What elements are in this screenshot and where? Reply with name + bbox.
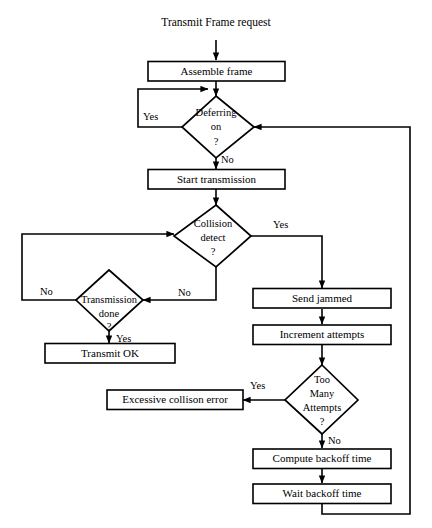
node-collision-line3: ? bbox=[211, 246, 216, 257]
node-collision-line2: detect bbox=[200, 232, 225, 243]
edge-label-deferring-no: No bbox=[221, 154, 234, 165]
flowchart-svg: Transmit Frame request Assemble frame De… bbox=[0, 0, 432, 528]
node-deferring-line3: ? bbox=[214, 136, 219, 147]
node-txdone-line2: done bbox=[99, 308, 120, 319]
node-collision-line1: Collision bbox=[194, 218, 233, 229]
edge-label-collision-no: No bbox=[178, 287, 191, 298]
edge-label-toomany-no: No bbox=[328, 435, 341, 446]
edge-label-txdone-yes: Yes bbox=[116, 333, 131, 344]
node-start-transmission-label: Start transmission bbox=[177, 173, 257, 185]
flowchart-canvas: Transmit Frame request Assemble frame De… bbox=[0, 0, 432, 528]
node-assemble-frame-label: Assemble frame bbox=[181, 65, 253, 77]
node-toomany-line1: Too bbox=[314, 374, 330, 385]
start-label: Transmit Frame request bbox=[161, 16, 271, 29]
edge-label-toomany-yes: Yes bbox=[250, 380, 265, 391]
node-txdone-line1: Transmission bbox=[81, 294, 138, 305]
node-increment-attempts-label: Increment attempts bbox=[280, 328, 365, 340]
edge-label-deferring-yes: Yes bbox=[143, 111, 158, 122]
node-toomany-line3: Attempts bbox=[303, 402, 342, 413]
node-toomany-line2: Many bbox=[310, 388, 335, 399]
node-txdone-line3: ? bbox=[107, 321, 112, 332]
node-compute-backoff-time-label: Compute backoff time bbox=[273, 452, 372, 464]
edge-label-txdone-no: No bbox=[40, 286, 53, 297]
node-send-jammed-label: Send jammed bbox=[292, 292, 353, 304]
edge-label-collision-yes: Yes bbox=[273, 219, 288, 230]
node-wait-backoff-time-label: Wait backoff time bbox=[283, 487, 362, 499]
node-transmit-ok-label: Transmit OK bbox=[81, 347, 139, 359]
edge-collision-yes bbox=[251, 236, 322, 288]
node-deferring-line2: on bbox=[211, 121, 222, 132]
node-deferring-line1: Deferring bbox=[196, 107, 238, 118]
node-excessive-collison-error-label: Excessive collison error bbox=[122, 393, 228, 405]
node-toomany-line4: ? bbox=[320, 416, 325, 427]
